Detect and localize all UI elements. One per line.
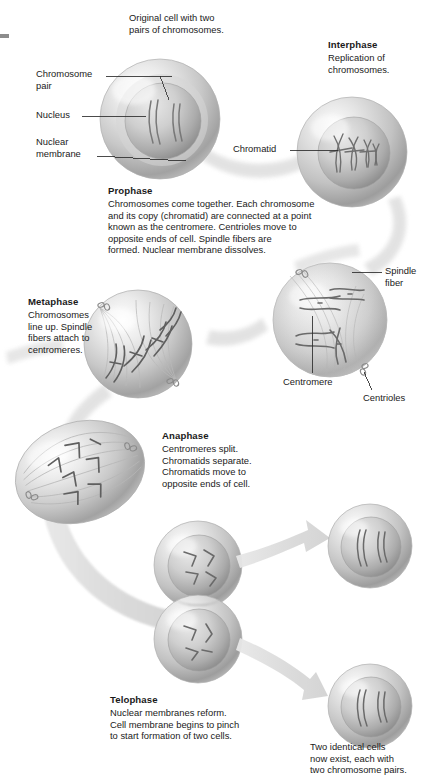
cell-prophase [273, 263, 387, 377]
cell-telophase [154, 521, 242, 683]
cell-interphase [297, 97, 407, 207]
cell-anaphase [2, 404, 158, 540]
cell-original [100, 59, 220, 179]
phase-title-anaphase: Anaphase [162, 430, 209, 442]
top-caption: Original cell with two pairs of chromoso… [129, 12, 279, 35]
phase-text-metaphase: Chromosomes line up. Spindle fibers atta… [28, 309, 110, 355]
mitosis-diagram: Original cell with two pairs of chromoso… [0, 0, 437, 783]
phase-title-telophase: Telophase [110, 694, 158, 706]
bottom-caption: Two identical cells now exist, each with… [310, 741, 435, 776]
cell-daughter-upper [328, 504, 412, 588]
edge-trim-mark [0, 34, 9, 38]
cell-daughter-lower [328, 664, 412, 748]
callout-centrioles: Centrioles [363, 392, 405, 404]
callout-chromosome-pair: Chromosome pair [36, 68, 116, 91]
phase-text-interphase: Replication of chromosomes. [328, 52, 433, 75]
leader-centrioles [364, 372, 372, 390]
phase-text-telophase: Nuclear membranes reform. Cell membrane … [110, 707, 280, 742]
phase-title-interphase: Interphase [328, 39, 378, 51]
arrow-to-daughter-2 [236, 638, 328, 700]
callout-spindle-fiber: Spindle fiber [385, 265, 435, 288]
callout-nucleus: Nucleus [36, 109, 106, 121]
callout-centromere: Centromere [283, 376, 333, 388]
callout-nuclear-membrane: Nuclear membrane [36, 136, 116, 159]
phase-text-anaphase: Centromeres split. Chromatids separate. … [162, 443, 292, 489]
arrow-to-daughter-1 [236, 520, 330, 568]
phase-title-metaphase: Metaphase [28, 296, 79, 308]
phase-title-prophase: Prophase [108, 185, 153, 197]
phase-text-prophase: Chromosomes come together. Each chromoso… [108, 198, 408, 256]
callout-chromatid: Chromatid [233, 143, 293, 155]
